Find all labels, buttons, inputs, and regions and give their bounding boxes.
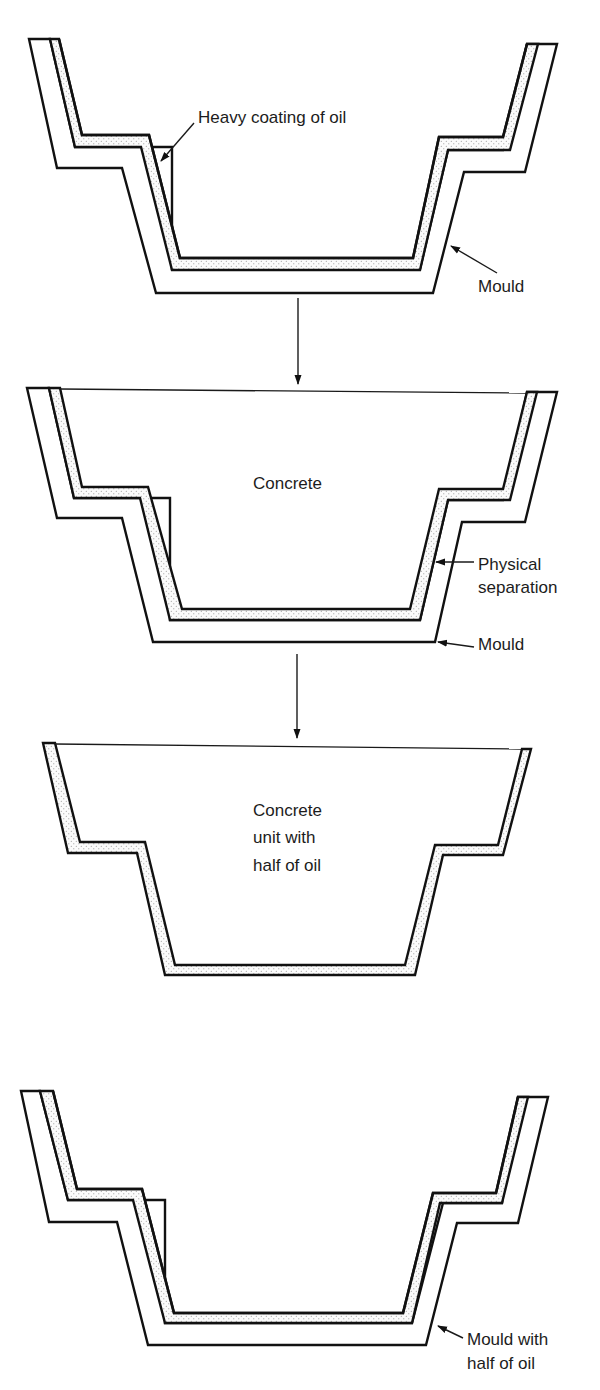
concrete-top-surface — [60, 389, 527, 393]
mould-shape — [29, 39, 557, 293]
label-mould-1: Mould — [478, 277, 524, 296]
leader-arrow-icon — [438, 1326, 463, 1338]
stage-1-oiled-mould — [29, 39, 557, 293]
unit-top-surface — [55, 744, 522, 749]
label-physical: Physical — [478, 555, 541, 574]
leader-arrow-icon — [451, 246, 497, 273]
leader-arrow-icon — [161, 123, 194, 161]
label-mould-2: Mould — [478, 635, 524, 654]
label-heavy-coating: Heavy coating of oil — [198, 108, 346, 127]
oil-release-diagram: Heavy coating of oil Mould Concrete Phys… — [0, 0, 600, 1390]
mould-shape — [21, 1091, 548, 1345]
stage-2-concrete-in-mould — [27, 388, 557, 642]
stage-4-mould-half-oil — [21, 1091, 548, 1345]
label-concrete: Concrete — [253, 474, 322, 493]
label-half-of-oil: half of oil — [467, 1354, 535, 1373]
label-unit-line1: Concrete — [253, 801, 322, 820]
label-mould-with: Mould with — [467, 1330, 548, 1349]
label-unit-line3: half of oil — [253, 856, 321, 875]
label-unit-line2: unit with — [253, 828, 315, 847]
leader-arrow-icon — [438, 642, 474, 647]
mould-shape — [27, 388, 557, 642]
label-separation: separation — [478, 578, 557, 597]
